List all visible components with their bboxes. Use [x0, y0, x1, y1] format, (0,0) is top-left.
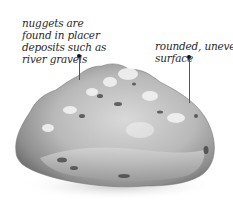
annotation-line: nuggets are: [22, 17, 106, 29]
nugget-illustration: nuggets are found in placer deposits suc…: [0, 0, 233, 203]
leader-line-surface: [189, 59, 190, 103]
annotation-line: deposits such as: [22, 41, 106, 53]
annotation-placer-deposits: nuggets are found in placer deposits suc…: [22, 17, 106, 65]
annotation-line: found in placer: [22, 29, 106, 41]
annotation-surface: rounded, uneven surface: [155, 40, 233, 64]
leader-line-placer: [79, 58, 80, 80]
annotation-line: river gravels: [22, 53, 106, 65]
annotation-line: rounded, uneven: [155, 40, 233, 52]
annotation-line: surface: [155, 52, 233, 64]
